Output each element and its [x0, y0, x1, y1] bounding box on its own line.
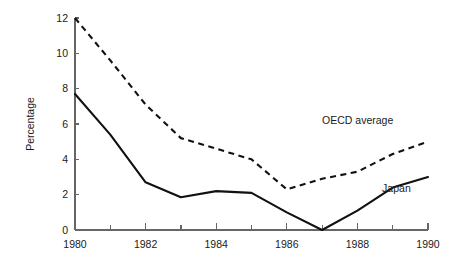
x-tick-label: 1986: [275, 238, 299, 250]
chart-figure: 024681012 198019821984198619881990 OECD …: [0, 0, 452, 275]
y-axis-tick-labels: 024681012: [56, 12, 68, 236]
y-tick-label: 0: [62, 224, 68, 236]
y-tick-label: 2: [62, 188, 68, 200]
x-tick-label: 1988: [346, 238, 370, 250]
y-tick-label: 8: [62, 82, 68, 94]
line-chart: 024681012 198019821984198619881990 OECD …: [0, 0, 452, 275]
x-tick-label: 1982: [134, 238, 158, 250]
x-tick-label: 1990: [416, 238, 440, 250]
x-axis-tick-labels: 198019821984198619881990: [63, 238, 440, 250]
y-tick-label: 10: [56, 47, 68, 59]
y-tick-label: 12: [56, 12, 68, 24]
y-tick-label: 4: [62, 153, 68, 165]
series-line-oecd-average: [75, 18, 428, 189]
series-label-oecd-average: OECD average: [322, 114, 393, 126]
series-annotations: OECD averageJapan: [322, 114, 411, 194]
y-axis-title: Percentage: [24, 97, 36, 151]
series-label-japan: Japan: [382, 182, 411, 194]
x-tick-label: 1984: [205, 238, 229, 250]
y-tick-label: 6: [62, 118, 68, 130]
x-tick-label: 1980: [63, 238, 87, 250]
